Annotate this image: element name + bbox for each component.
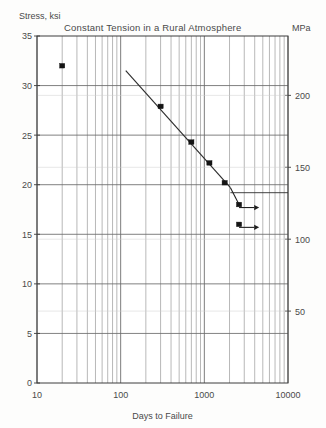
chart-title: Constant Tension in a Rural Atmosphere [64,22,241,33]
y-axis-tick-labels: 05101520253035 [22,31,32,388]
data-point-marker [222,180,227,185]
x-tick-label: 100 [113,390,128,400]
stress-vs-days-to-failure-chart: Constant Tension in a Rural Atmosphere S… [0,0,326,428]
data-point-marker [236,202,241,207]
y-tick-label: 5 [27,329,32,339]
y2-axis-title: MPa [292,23,311,33]
y2-tick-label: 100 [295,235,310,245]
y-tick-label: 15 [22,230,32,240]
y2-tick-label: 50 [295,307,305,317]
y-tick-label: 25 [22,131,32,141]
y-axis-title: Stress, ksi [19,11,61,21]
data-point-marker [207,161,212,166]
y-tick-label: 35 [22,31,32,41]
x-tick-label: 10000 [275,390,300,400]
y2-tick-label: 150 [295,163,310,173]
y-tick-label: 30 [22,81,32,91]
y-tick-label: 0 [27,378,32,388]
plot-background [37,36,288,383]
y2-axis-tick-labels: 50100150200 [295,91,310,317]
y2-tick-label: 200 [295,91,310,101]
data-point-marker [189,140,194,145]
y-tick-label: 20 [22,180,32,190]
x-tick-label: 10 [32,390,42,400]
x-axis-tick-labels: 10100100010000 [32,390,301,400]
x-axis-title: Days to Failure [132,411,193,421]
x-tick-label: 1000 [194,390,214,400]
chart-figure: Constant Tension in a Rural Atmosphere S… [0,0,326,428]
data-point-marker [60,63,65,68]
data-point-marker [158,104,163,109]
data-point-marker [236,222,241,227]
y-tick-label: 10 [22,279,32,289]
